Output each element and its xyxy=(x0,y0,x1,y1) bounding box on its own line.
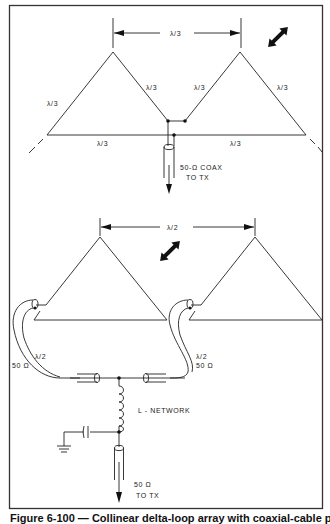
right-phasing-line-label-2: 50 Ω xyxy=(196,362,213,369)
top-feed-label-2: TO TX xyxy=(186,174,209,181)
left-phasing-line-label-1: λ/2 xyxy=(35,353,46,360)
figure-caption: Figure 6-100 — Collinear delta-loop arra… xyxy=(10,511,330,524)
bottom-feed-label-2: TO TX xyxy=(136,492,159,499)
bottom-feed-label-1: 50 Ω xyxy=(134,481,151,488)
l-network-label: L - NETWORK xyxy=(138,407,190,414)
top-left-base-label: λ/3 xyxy=(97,140,108,147)
polarization-arrow-icon xyxy=(265,24,292,51)
right-phasing-line-label-1: λ/2 xyxy=(196,353,207,360)
top-spacing-label: λ/3 xyxy=(170,30,181,37)
top-diagram xyxy=(29,18,322,194)
bottom-spacing-label: λ/2 xyxy=(167,224,178,231)
top-right-base-label: λ/3 xyxy=(230,140,241,147)
bottom-diagram xyxy=(13,218,322,503)
top-left-outer-side-label: λ/3 xyxy=(47,100,58,107)
top-junction-dots xyxy=(166,119,187,137)
top-feed-label-1: 50-Ω COAX xyxy=(180,164,223,171)
top-right-outer-side-label: λ/3 xyxy=(277,84,288,91)
polarization-arrow-icon xyxy=(157,238,184,265)
top-left-inner-side-label: λ/3 xyxy=(146,84,157,91)
left-phasing-line-label-2: 50 Ω xyxy=(12,362,29,369)
bottom-junction-dots xyxy=(34,307,192,434)
top-right-inner-side-label: λ/3 xyxy=(194,84,205,91)
